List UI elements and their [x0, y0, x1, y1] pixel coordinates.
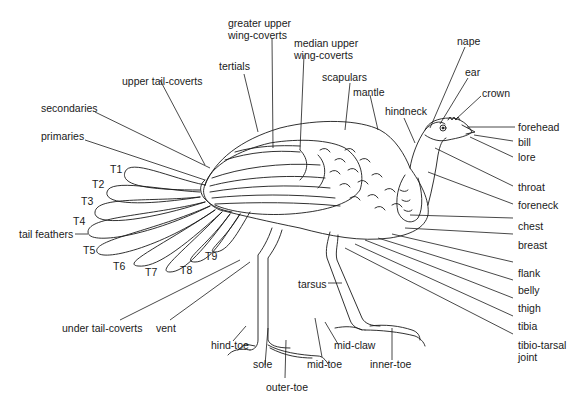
label-tail-feathers: tail feathers — [19, 228, 73, 240]
tail-feather-t8: T8 — [180, 264, 192, 276]
label-line: wing-coverts — [294, 49, 358, 61]
label-line: tibio-tarsal — [518, 339, 566, 351]
label-flank: flank — [518, 267, 540, 279]
label-line: wing-coverts — [228, 29, 291, 41]
label-bill: bill — [518, 136, 531, 148]
label-median-upper-wing-coverts: median upper wing-coverts — [294, 37, 358, 61]
label-throat: throat — [518, 181, 545, 193]
label-crown: crown — [482, 87, 510, 99]
label-inner-toe: inner-toe — [370, 358, 411, 370]
turkey-anatomy-diagram: greater upper wing-coverts median upper … — [0, 0, 581, 410]
label-sole: sole — [253, 358, 272, 370]
label-forehead: forehead — [518, 121, 559, 133]
label-primaries: primaries — [41, 130, 84, 142]
label-tarsus: tarsus — [298, 278, 327, 290]
tail-feather-t6: T6 — [113, 260, 125, 272]
label-breast: breast — [518, 239, 547, 251]
label-outer-toe: outer-toe — [266, 381, 308, 393]
label-tibia: tibia — [518, 320, 537, 332]
label-lore: lore — [518, 151, 536, 163]
label-nape: nape — [457, 35, 480, 47]
label-chest: chest — [518, 220, 543, 232]
label-greater-upper-wing-coverts: greater upper wing-coverts — [228, 17, 291, 41]
label-line: greater upper — [228, 17, 291, 29]
tail-feather-t3: T3 — [81, 195, 93, 207]
label-ear: ear — [465, 66, 480, 78]
label-mid-claw: mid-claw — [334, 339, 375, 351]
label-scapulars: scapulars — [322, 71, 367, 83]
label-under-tail-coverts: under tail-coverts — [62, 322, 143, 334]
label-hindneck: hindneck — [385, 105, 427, 117]
tail-feather-t5: T5 — [83, 244, 95, 256]
label-vent: vent — [156, 322, 176, 334]
tail-feather-t4: T4 — [73, 215, 85, 227]
label-line: median upper — [294, 37, 358, 49]
tail-feather-t9: T9 — [205, 250, 217, 262]
tail-feather-t7: T7 — [145, 266, 157, 278]
label-secondaries: secondaries — [41, 102, 98, 114]
label-mid-toe: mid-toe — [307, 358, 342, 370]
label-foreneck: foreneck — [518, 199, 558, 211]
label-belly: belly — [518, 284, 540, 296]
label-upper-tail-coverts: upper tail-coverts — [122, 75, 203, 87]
label-hind-toe: hind-toe — [211, 339, 249, 351]
label-tibio-tarsal-joint: tibio-tarsal joint — [518, 339, 566, 363]
label-thigh: thigh — [518, 302, 541, 314]
tail-feather-t1: T1 — [110, 163, 122, 175]
label-mantle: mantle — [353, 86, 385, 98]
label-line: joint — [518, 351, 566, 363]
tail-feather-t2: T2 — [92, 178, 104, 190]
label-tertials: tertials — [219, 60, 250, 72]
